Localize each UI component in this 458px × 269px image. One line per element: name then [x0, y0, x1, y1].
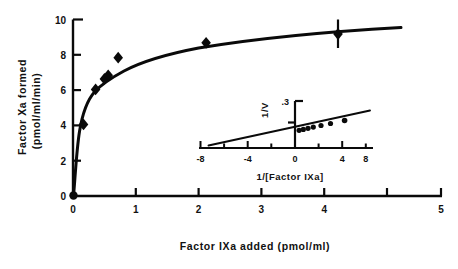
data-point-origin	[69, 191, 77, 199]
inset-y-tick-label: .3	[281, 97, 289, 107]
inset-x-tick-0: 0	[292, 154, 297, 164]
main-x-tick-3: 3	[259, 204, 265, 215]
plot-background	[0, 0, 458, 269]
main-y-tick-0: 0	[60, 191, 66, 202]
inset-x-tick-minus8: -8	[196, 154, 204, 164]
factor-xa-kinetics-plot: 10 8 6 4 2 0 0 1 2 3 4 5	[0, 0, 458, 269]
main-y-tick-8: 8	[60, 50, 66, 61]
inset-point-7	[342, 118, 348, 124]
main-y-tick-6: 6	[60, 85, 66, 96]
main-x-tick-2: 2	[196, 204, 202, 215]
inset-point-2	[301, 127, 306, 132]
inset-x-axis-title: 1/[Factor IXa]	[256, 171, 323, 182]
main-y-tick-2: 2	[60, 156, 66, 167]
main-x-axis-title: Factor IXa added (pmol/ml)	[180, 240, 330, 252]
inset-point-5	[318, 123, 323, 128]
inset-y-axis-title: 1/V	[259, 102, 270, 118]
main-x-tick-4: 4	[321, 204, 327, 215]
main-x-tick-5: 5	[438, 204, 444, 215]
main-y-tick-4: 4	[60, 120, 66, 131]
inset-point-3	[305, 126, 310, 131]
main-y-tick-10: 10	[55, 15, 67, 26]
figure-canvas: 10 8 6 4 2 0 0 1 2 3 4 5	[0, 0, 458, 269]
main-y-axis-title-line1: Factor Xa formed	[16, 59, 28, 155]
main-x-tick-0: 0	[70, 204, 76, 215]
main-x-tick-1: 1	[133, 204, 139, 215]
inset-x-tick-4: 4	[340, 154, 345, 164]
inset-point-4	[311, 125, 316, 130]
inset-x-tick-8: 8	[363, 154, 368, 164]
main-y-axis-title-line2: (pmol/ml/min)	[30, 73, 42, 150]
inset-point-6	[328, 121, 333, 126]
inset-x-tick-minus4: -4	[244, 154, 252, 164]
